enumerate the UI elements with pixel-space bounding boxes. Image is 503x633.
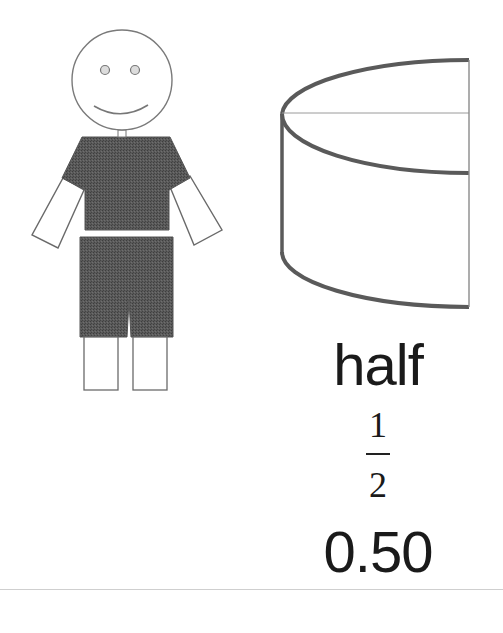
shirt: [62, 137, 190, 230]
neck: [118, 130, 126, 137]
cylinder-top-back-arc: [282, 60, 469, 114]
fraction-word-label: half: [300, 335, 456, 395]
right-eye: [131, 66, 140, 75]
cylinder-bottom-arc: [282, 252, 469, 307]
left-eye: [101, 66, 110, 75]
right-leg: [133, 337, 167, 390]
fraction-bar: [366, 453, 390, 455]
fraction-denominator: 2: [348, 465, 408, 505]
fraction-display: 1 2: [348, 405, 408, 505]
half-cylinder: [282, 60, 469, 307]
left-arm: [32, 178, 84, 248]
bottom-divider: [0, 589, 503, 590]
decimal-value-label: 0.50: [300, 522, 456, 582]
head: [72, 30, 172, 130]
fraction-numerator: 1: [348, 405, 408, 445]
shorts: [80, 237, 173, 337]
boy-figure: [32, 30, 222, 390]
cylinder-top-front-arc: [282, 114, 469, 173]
left-leg: [84, 337, 118, 390]
